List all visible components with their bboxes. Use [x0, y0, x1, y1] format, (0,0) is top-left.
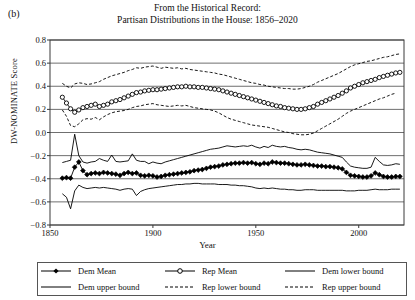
marker-circle [217, 88, 221, 92]
marker-diamond [64, 175, 69, 180]
marker-circle [204, 86, 208, 90]
marker-diamond [192, 168, 197, 173]
legend-table: Dem MeanRep MeanDem lower boundDem upper… [38, 263, 406, 295]
marker-diamond [159, 174, 164, 179]
y-tick-label: 0.0 [20, 128, 46, 138]
marker-circle [307, 106, 311, 110]
legend-label: Rep Mean [200, 263, 282, 279]
y-tick-label: 0.4 [20, 81, 46, 91]
marker-circle [180, 85, 184, 89]
marker-circle [324, 99, 328, 103]
marker-circle [311, 104, 315, 108]
marker-diamond [109, 171, 114, 176]
x-tick-label: 1900 [144, 228, 161, 238]
marker-circle [155, 88, 159, 92]
marker-diamond [290, 162, 295, 167]
x-axis-label: Year [0, 240, 415, 250]
marker-diamond [89, 171, 94, 176]
marker-circle [89, 103, 93, 107]
marker-circle [188, 85, 192, 89]
marker-circle [315, 102, 319, 106]
marker-circle [340, 91, 344, 95]
marker-circle [64, 101, 68, 105]
marker-circle [390, 72, 394, 76]
marker-diamond [319, 164, 324, 169]
marker-diamond [328, 164, 333, 169]
marker-circle [208, 86, 212, 90]
marker-diamond [171, 172, 176, 177]
marker-circle [143, 89, 147, 93]
legend-key-rep-upper-bound [282, 279, 320, 295]
marker-diamond [134, 171, 139, 176]
marker-diamond [303, 162, 308, 167]
marker-diamond [188, 169, 193, 174]
marker-diamond [253, 161, 258, 166]
marker-circle [394, 71, 398, 75]
marker-diamond [229, 161, 234, 166]
marker-circle [361, 81, 365, 85]
marker-circle [176, 85, 180, 89]
marker-circle [60, 95, 64, 99]
marker-diamond [200, 167, 205, 172]
marker-diamond [138, 173, 143, 178]
marker-circle [101, 103, 105, 107]
marker-circle [110, 100, 114, 104]
legend-label: Rep upper bound [320, 279, 406, 295]
marker-diamond [208, 165, 213, 170]
marker-diamond [142, 173, 147, 178]
marker-circle [369, 78, 373, 82]
marker-diamond [101, 170, 106, 175]
marker-circle [159, 87, 163, 91]
marker-diamond [204, 166, 209, 171]
marker-diamond [332, 165, 337, 170]
marker-diamond [258, 162, 263, 167]
marker-diamond [307, 162, 312, 167]
marker-circle [126, 94, 130, 98]
marker-circle [381, 74, 385, 78]
marker-circle [250, 97, 254, 101]
marker-circle [344, 89, 348, 93]
legend-label: Dem upper bound [76, 279, 162, 295]
marker-diamond [352, 173, 357, 178]
marker-diamond [68, 176, 73, 181]
marker-circle [385, 73, 389, 77]
legend-key-dem-lower-bound [282, 263, 320, 279]
marker-diamond [151, 173, 156, 178]
marker-circle [68, 107, 72, 111]
marker-circle [332, 95, 336, 99]
marker-circle [130, 92, 134, 96]
marker-diamond [286, 161, 291, 166]
y-axis-ticks: 0.80.60.40.20.0−0.2−0.4−0.6−0.8 [18, 0, 46, 262]
y-tick-label: 0.8 [20, 35, 46, 45]
marker-circle [237, 93, 241, 97]
marker-diamond [311, 163, 316, 168]
marker-circle [365, 80, 369, 84]
marker-diamond [282, 161, 287, 166]
marker-diamond [225, 162, 230, 167]
chart-legend: Dem MeanRep MeanDem lower boundDem upper… [37, 262, 407, 296]
marker-circle [138, 90, 142, 94]
marker-circle [274, 104, 278, 108]
marker-diamond [212, 164, 217, 169]
marker-diamond [336, 165, 341, 170]
marker-diamond [93, 171, 98, 176]
y-tick-label: 0.6 [20, 58, 46, 68]
marker-circle [97, 104, 101, 108]
marker-diamond [237, 161, 242, 166]
marker-diamond [146, 173, 151, 178]
chart-plot-area: DW-NOMINATE Score 0.80.60.40.20.0−0.2−0.… [0, 0, 415, 262]
marker-diamond [274, 160, 279, 165]
marker-diamond [105, 171, 110, 176]
marker-circle [167, 86, 171, 90]
x-tick-label: 1850 [42, 228, 59, 238]
marker-circle [184, 84, 188, 88]
marker-diamond [249, 160, 254, 165]
marker-circle [336, 93, 340, 97]
marker-circle [303, 107, 307, 111]
legend-key-rep-lower-bound [162, 279, 200, 295]
marker-diamond [167, 172, 172, 177]
marker-diamond [126, 170, 131, 175]
series-line-rep-upper-bound [62, 54, 400, 89]
y-tick-label: −0.4 [20, 174, 46, 184]
marker-circle [196, 85, 200, 89]
